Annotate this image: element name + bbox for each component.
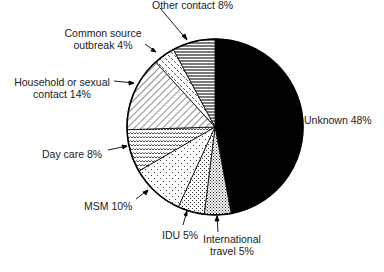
label-household: Household or sexual contact 14%: [12, 76, 112, 100]
label-international-travel: International travel 5%: [197, 233, 267, 257]
label-household-line1: Household or sexual: [12, 76, 112, 88]
label-unknown: Unknown 48%: [304, 114, 372, 126]
pie-slice-unknown: [215, 39, 303, 214]
label-other-contact: Other contact 8%: [152, 0, 233, 11]
label-common-source-line2: outbreak 4%: [58, 39, 148, 51]
label-msm: MSM 10%: [84, 200, 132, 212]
label-day-care: Day care 8%: [42, 148, 102, 160]
label-international-travel-line1: International: [197, 233, 267, 245]
label-idu: IDU 5%: [162, 229, 198, 241]
label-common-source: Common source outbreak 4%: [58, 27, 148, 51]
label-international-travel-line2: travel 5%: [197, 245, 267, 257]
label-common-source-line1: Common source: [58, 27, 148, 39]
label-household-line2: contact 14%: [12, 88, 112, 100]
